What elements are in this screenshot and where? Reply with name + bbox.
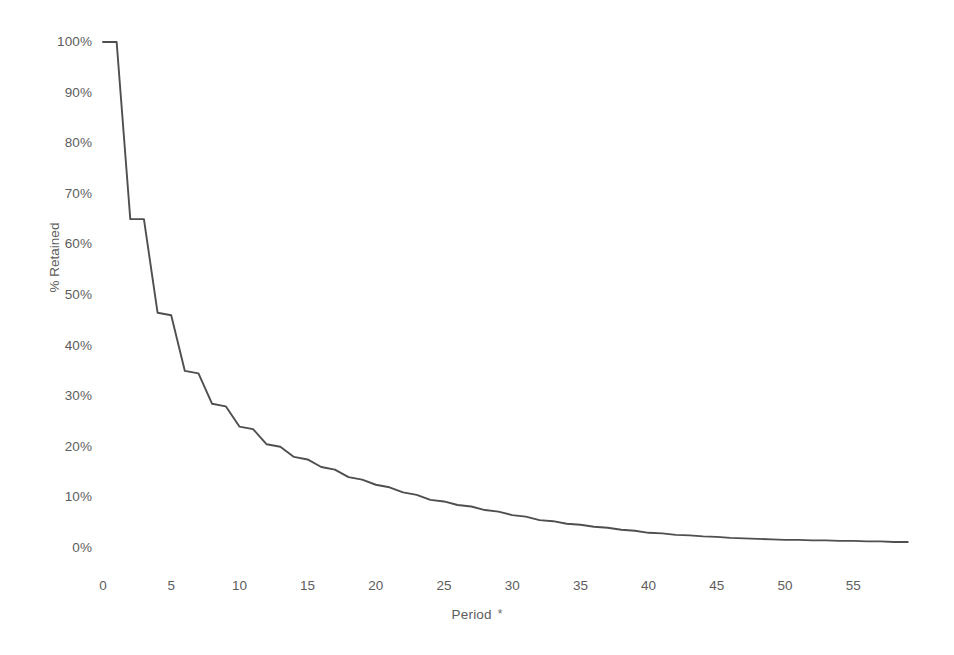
x-axis-tick-label: 55 <box>833 578 873 594</box>
x-axis-tick-label: 35 <box>560 578 600 594</box>
x-axis-tick-label: 50 <box>765 578 805 594</box>
plot-area <box>0 0 954 655</box>
x-axis-tick-label: 0 <box>83 578 123 594</box>
footnote-asterisk-icon: * <box>498 607 503 621</box>
x-axis-title: Period* <box>0 607 954 622</box>
x-axis-tick-label: 15 <box>288 578 328 594</box>
retention-line <box>103 42 908 542</box>
x-axis-tick-label: 25 <box>424 578 464 594</box>
x-axis-tick-label: 45 <box>697 578 737 594</box>
retention-chart: 100%90%80%70%60%50%40%30%20%10%0% % Reta… <box>0 0 954 655</box>
x-axis-tick-label: 5 <box>151 578 191 594</box>
x-axis-tick-label: 30 <box>492 578 532 594</box>
x-axis-tick-label: 10 <box>219 578 259 594</box>
x-axis-title-text: Period <box>452 607 492 622</box>
x-axis-tick-label: 20 <box>356 578 396 594</box>
x-axis-tick-label: 40 <box>629 578 669 594</box>
x-axis-tick-labels: 0510152025303540455055 <box>0 578 954 600</box>
